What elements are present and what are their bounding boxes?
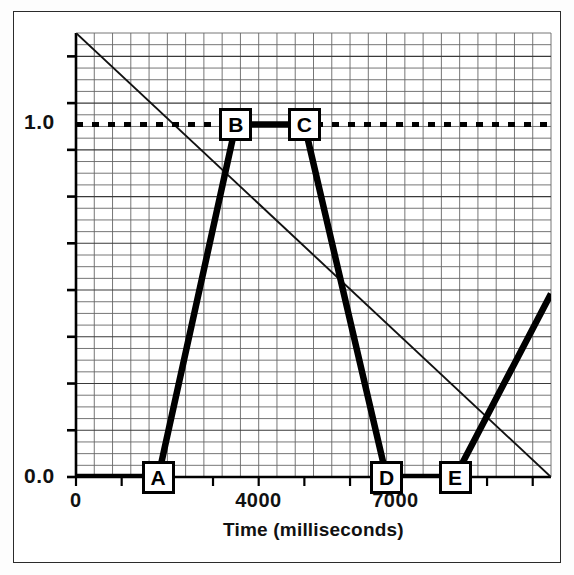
data-marker-b[interactable]: B: [219, 108, 252, 141]
x-tick-label-0: 0: [70, 489, 82, 512]
marker-label: E: [448, 467, 462, 488]
data-marker-d[interactable]: D: [370, 461, 403, 494]
y-tick-label-0: 0.0: [24, 464, 55, 488]
y-axis-ticks: [67, 56, 76, 477]
marker-label: D: [379, 467, 394, 488]
chart-svg: [0, 0, 574, 575]
marker-label: A: [151, 467, 166, 488]
x-axis-title: Time (milliseconds): [223, 519, 404, 541]
plot-area: A B C D E 1.0 0.0 0 4000 7000 Time (mill…: [0, 0, 574, 575]
figure-canvas: A B C D E 1.0 0.0 0 4000 7000 Time (mill…: [0, 0, 574, 575]
y-tick-label-1: 1.0: [24, 110, 55, 134]
marker-label: B: [228, 114, 243, 135]
data-marker-e[interactable]: E: [439, 461, 472, 494]
data-marker-a[interactable]: A: [142, 461, 175, 494]
x-tick-label-1: 4000: [235, 489, 282, 512]
marker-label: C: [297, 114, 312, 135]
data-marker-c[interactable]: C: [288, 108, 321, 141]
